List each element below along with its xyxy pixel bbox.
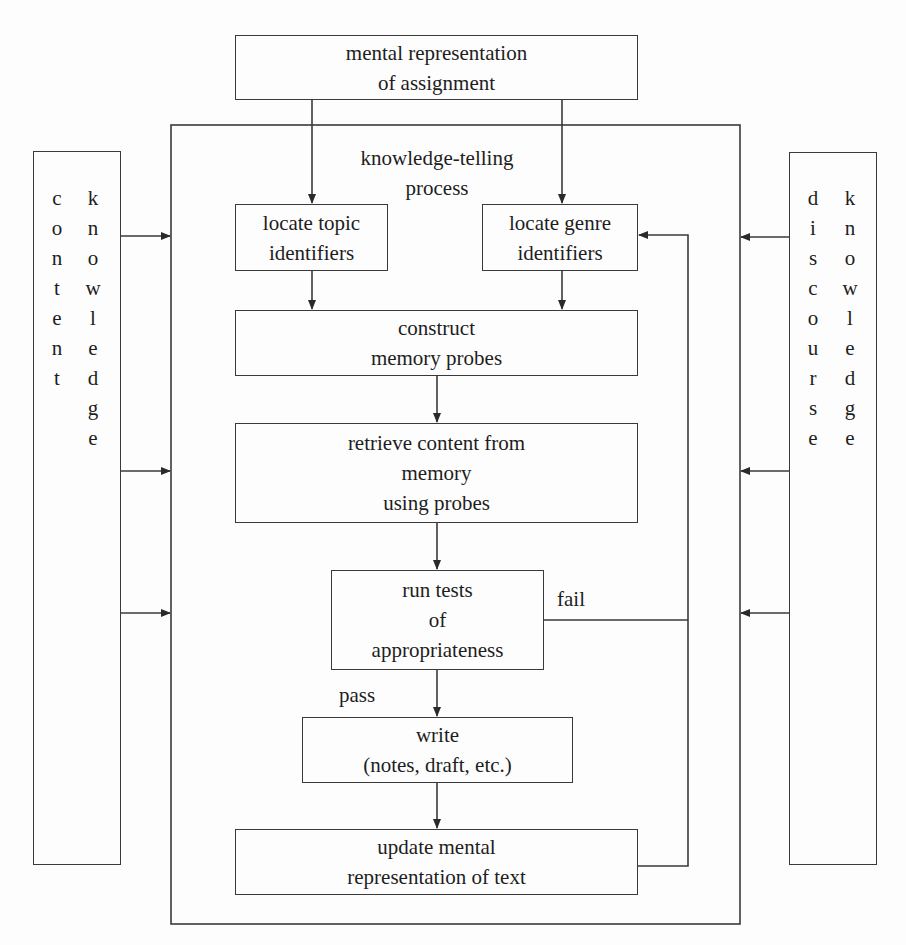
letter: e	[88, 423, 97, 453]
box-text-line: construct	[398, 313, 475, 343]
letter: e	[845, 423, 854, 453]
box-text-line: memory probes	[371, 343, 502, 373]
letter: r	[810, 363, 817, 393]
label-text-line: knowledge-telling	[361, 143, 514, 173]
box-text-line: run tests	[402, 575, 473, 605]
box-text-line: appropriateness	[372, 635, 504, 665]
letter: o	[52, 213, 63, 243]
content-word-column: c o n t e n t	[47, 183, 67, 393]
letter: e	[52, 303, 61, 333]
letter: o	[88, 243, 99, 273]
letter: o	[845, 243, 856, 273]
box-text-line: identifiers	[517, 238, 602, 268]
letter: n	[88, 213, 99, 243]
box-text-line: write	[416, 720, 459, 750]
letter: w	[85, 273, 100, 303]
construct-memory-probes-box: construct memory probes	[235, 310, 638, 376]
box-text-line: retrieve content from	[348, 428, 525, 458]
letter: d	[88, 363, 99, 393]
update-mental-representation-box: update mental representation of text	[235, 829, 638, 895]
letter: d	[808, 183, 819, 213]
letter: u	[808, 333, 819, 363]
box-text-line: representation of text	[347, 862, 525, 892]
box-text-line: update mental	[377, 832, 495, 862]
box-text-line: memory	[402, 458, 472, 488]
box-text-line: mental representation	[346, 38, 527, 68]
box-text-line: using probes	[383, 488, 490, 518]
letter: d	[845, 363, 856, 393]
knowledge-telling-process-label: knowledge-telling process	[337, 143, 537, 203]
discourse-word-column: d i s c o u r s e	[803, 183, 823, 453]
letter: k	[88, 183, 99, 213]
run-tests-of-appropriateness-box: run tests of appropriateness	[331, 570, 544, 670]
letter: o	[808, 303, 819, 333]
knowledge-word-column-right: k n o w l e d g e	[840, 183, 860, 453]
box-text-line: identifiers	[269, 238, 354, 268]
letter: c	[808, 273, 817, 303]
letter: n	[52, 243, 63, 273]
letter: g	[845, 393, 856, 423]
box-text-line: (notes, draft, etc.)	[363, 750, 512, 780]
letter: e	[808, 423, 817, 453]
letter: e	[845, 333, 854, 363]
locate-topic-identifiers-box: locate topic identifiers	[235, 204, 388, 271]
letter: t	[54, 363, 60, 393]
letter: g	[88, 393, 99, 423]
knowledge-word-column-left: k n o w l e d g e	[83, 183, 103, 453]
fail-label: fail	[557, 584, 585, 614]
letter: l	[90, 303, 96, 333]
letter: e	[88, 333, 97, 363]
mental-representation-of-assignment-box: mental representation of assignment	[235, 35, 638, 100]
box-text-line: locate genre	[509, 208, 611, 238]
letter: w	[842, 273, 857, 303]
box-text-line: locate topic	[263, 208, 360, 238]
pass-label: pass	[339, 680, 375, 710]
letter: n	[845, 213, 856, 243]
letter: n	[52, 333, 63, 363]
letter: s	[809, 393, 817, 423]
letter: t	[54, 273, 60, 303]
write-box: write (notes, draft, etc.)	[302, 717, 573, 783]
box-text-line: of assignment	[378, 68, 495, 98]
letter: l	[847, 303, 853, 333]
retrieve-content-box: retrieve content from memory using probe…	[235, 423, 638, 523]
label-text-line: process	[406, 173, 469, 203]
letter: c	[52, 183, 61, 213]
letter: k	[845, 183, 856, 213]
box-text-line: of	[429, 605, 447, 635]
locate-genre-identifiers-box: locate genre identifiers	[482, 204, 638, 271]
letter: s	[809, 243, 817, 273]
letter: i	[810, 213, 816, 243]
